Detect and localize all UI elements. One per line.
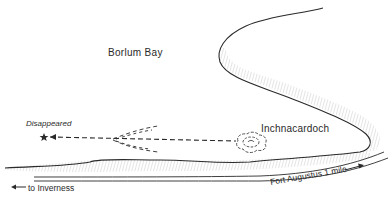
coastline [5,8,370,168]
ripple-icon [237,132,267,152]
inverness-road-label: to Inverness [28,184,74,193]
wake-arrowhead [50,134,56,140]
wake-track [50,126,236,152]
sketch-map: Borlum Bay Inchnacardoch Disappeared to … [0,0,388,198]
shore-hatching [5,48,380,172]
bay-label: Borlum Bay [108,48,163,58]
star-icon [40,133,49,141]
point-label: Inchnacardoch [261,124,329,134]
disappeared-label: Disappeared [26,120,71,128]
arrow-left-icon [11,185,26,190]
